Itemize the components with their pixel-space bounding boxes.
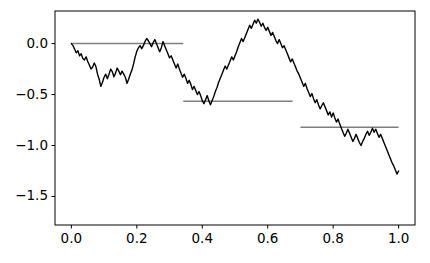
x-tick-label: 1.0 [388, 232, 409, 246]
plot-canvas [0, 0, 430, 263]
matplotlib-figure: 0.0−0.5−1.0−1.5 0.00.20.40.60.81.0 [0, 0, 430, 263]
y-tick-label: 0.0 [27, 37, 48, 51]
x-tick-label: 0.8 [322, 232, 343, 246]
x-tick-label: 0.4 [192, 232, 213, 246]
x-tick-label: 0.0 [61, 232, 82, 246]
x-tick-label: 0.6 [257, 232, 278, 246]
y-tick-label: −0.5 [15, 88, 48, 102]
y-tick-label: −1.5 [15, 190, 48, 204]
x-tick-label: 0.2 [126, 232, 147, 246]
y-tick-label: −1.0 [15, 139, 48, 153]
